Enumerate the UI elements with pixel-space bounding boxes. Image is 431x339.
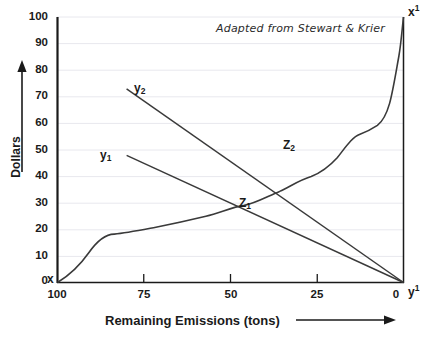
y-tick-label-70: 70 bbox=[14, 89, 48, 101]
intersection-label-z1-sub: 1 bbox=[246, 201, 251, 211]
y-tick-label-30: 30 bbox=[14, 196, 48, 208]
corner-label-x-origin-text: x bbox=[47, 272, 54, 286]
y-tick-label-40: 40 bbox=[14, 169, 48, 181]
y-tick-label-50: 50 bbox=[14, 143, 48, 155]
x-tick-label-75: 75 bbox=[124, 288, 164, 300]
gridlines bbox=[57, 17, 404, 256]
intersection-label-z2-sub: 2 bbox=[290, 143, 295, 153]
x-axis-arrow bbox=[296, 316, 396, 325]
corner-label-y-prime-sup: 1 bbox=[415, 283, 420, 293]
intersection-label-z1: Z1 bbox=[239, 196, 251, 211]
corner-label-x-prime: x1 bbox=[408, 3, 419, 19]
corner-label-x-prime-sup: 1 bbox=[415, 3, 420, 13]
x-tick-label-100: 100 bbox=[37, 288, 77, 300]
y-tick-label-90: 90 bbox=[14, 36, 48, 48]
series-y2-line bbox=[127, 89, 404, 283]
y-axis-title: Dollars bbox=[9, 122, 23, 192]
x-axis-ticks bbox=[144, 274, 318, 282]
x-tick-label-50: 50 bbox=[211, 288, 251, 300]
corner-label-x-origin: x bbox=[47, 272, 54, 286]
series-y1-line bbox=[127, 155, 404, 282]
series-label-y1-sub: 1 bbox=[107, 153, 112, 163]
series-label-y2-text: y bbox=[134, 81, 141, 95]
y-tick-label-20: 20 bbox=[14, 222, 48, 234]
series-label-y1-text: y bbox=[100, 148, 107, 162]
intersection-label-z2: Z2 bbox=[283, 138, 295, 153]
x-axis-title: Remaining Emissions (tons) bbox=[105, 313, 280, 328]
corner-label-x-prime-text: x bbox=[408, 5, 415, 19]
y-tick-label-80: 80 bbox=[14, 63, 48, 75]
x-tick-label-25: 25 bbox=[297, 288, 337, 300]
y-tick-label-100: 100 bbox=[14, 10, 48, 22]
y-tick-label-10: 10 bbox=[14, 249, 48, 261]
corner-label-y-prime-text: y bbox=[408, 285, 415, 299]
chart-annotation-credit: Adapted from Stewart & Krier bbox=[216, 22, 385, 35]
y-tick-label-60: 60 bbox=[14, 116, 48, 128]
corner-label-y-prime: y1 bbox=[408, 283, 419, 299]
series-label-y1: y1 bbox=[100, 148, 111, 163]
series-label-y2-sub: 2 bbox=[141, 86, 146, 96]
y-tick-label-0: 0 bbox=[14, 274, 48, 286]
series-label-y2: y2 bbox=[134, 81, 145, 96]
